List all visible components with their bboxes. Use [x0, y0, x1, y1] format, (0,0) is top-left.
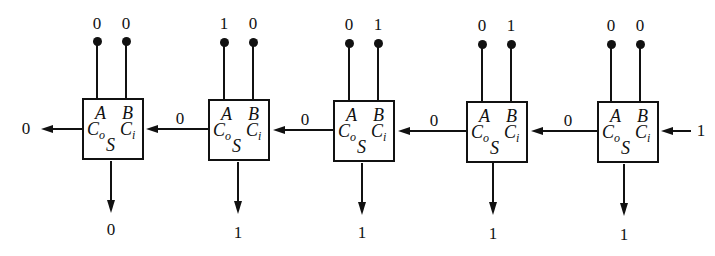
sum-output-arrowhead-icon: [107, 200, 115, 213]
pin-sum-label: S: [357, 138, 366, 156]
sum-output-arrowhead-icon: [489, 202, 497, 215]
final-carry-out-wire: [50, 128, 83, 130]
sum-output-arrowhead-icon: [234, 201, 242, 214]
input-b-label: 0: [245, 15, 261, 32]
carry-link-1-arrowhead-icon: [146, 125, 158, 133]
carry-link-1-label: 0: [172, 110, 188, 127]
input-a-wire: [481, 45, 483, 102]
pin-sum-label: S: [490, 139, 499, 157]
sum-output-label: 0: [103, 221, 119, 238]
pin-carry-in-label: Ci: [120, 120, 135, 144]
carry-link-4-label: 0: [560, 112, 576, 129]
input-b-wire: [377, 44, 379, 101]
input-a-label: 0: [603, 17, 619, 34]
input-b-label: 0: [632, 17, 648, 34]
input-a-wire: [610, 45, 612, 102]
input-b-label: 0: [118, 15, 134, 32]
sum-output-label: 1: [616, 226, 632, 243]
sum-output-wire: [237, 162, 239, 204]
input-a-label: 0: [89, 15, 105, 32]
full-adder-box: A B Co Ci S: [208, 99, 270, 161]
sum-output-wire: [492, 163, 494, 205]
sum-output-label: 1: [354, 224, 370, 241]
sum-output-wire: [623, 164, 625, 206]
input-a-wire: [223, 43, 225, 100]
full-adder-box: A B Co Ci S: [597, 101, 659, 163]
final-carry-out-label: 0: [18, 120, 34, 137]
pin-carry-in-label: Ci: [504, 123, 519, 147]
pin-sum-label: S: [106, 136, 115, 154]
pin-carry-in-label: Ci: [371, 122, 386, 146]
carry-link-3-wire: [407, 130, 467, 132]
pin-carry-out-label: Co: [338, 122, 356, 146]
full-adder-box: A B Co Ci S: [333, 100, 395, 162]
carry-link-4-arrowhead-icon: [531, 127, 543, 135]
input-b-wire: [639, 45, 641, 102]
input-a-label: 1: [216, 15, 232, 32]
carry-link-2-arrowhead-icon: [273, 126, 285, 134]
carry-link-1-wire: [155, 128, 209, 130]
initial-carry-in-label: 1: [693, 122, 709, 139]
pin-sum-label: S: [232, 137, 241, 155]
input-a-label: 0: [474, 17, 490, 34]
initial-carry-in-arrowhead-icon: [661, 127, 673, 135]
input-a-wire: [96, 42, 98, 99]
pin-carry-in-label: Ci: [635, 123, 650, 147]
initial-carry-in-wire: [670, 130, 691, 132]
input-a-wire: [348, 44, 350, 101]
sum-output-wire: [361, 163, 363, 205]
sum-output-arrowhead-icon: [620, 203, 628, 216]
input-b-wire: [510, 45, 512, 102]
pin-carry-out-label: Co: [471, 123, 489, 147]
input-a-label: 0: [341, 16, 357, 33]
carry-link-3-arrowhead-icon: [398, 127, 410, 135]
input-b-wire: [252, 43, 254, 100]
input-b-wire: [125, 42, 127, 99]
input-b-label: 1: [503, 17, 519, 34]
full-adder-box: A B Co Ci S: [82, 98, 144, 160]
sum-output-label: 1: [230, 224, 246, 241]
sum-output-arrowhead-icon: [358, 202, 366, 215]
pin-carry-in-label: Ci: [246, 121, 261, 145]
pin-carry-out-label: Co: [213, 121, 231, 145]
full-adder-box: A B Co Ci S: [466, 101, 528, 163]
pin-carry-out-label: Co: [87, 120, 105, 144]
sum-output-label: 1: [485, 225, 501, 242]
carry-link-2-wire: [282, 129, 334, 131]
carry-link-2-label: 0: [297, 111, 313, 128]
carry-link-3-label: 0: [426, 112, 442, 129]
sum-output-wire: [110, 161, 112, 203]
input-b-label: 1: [370, 16, 386, 33]
pin-sum-label: S: [621, 139, 630, 157]
carry-link-4-wire: [540, 130, 598, 132]
pin-carry-out-label: Co: [602, 123, 620, 147]
